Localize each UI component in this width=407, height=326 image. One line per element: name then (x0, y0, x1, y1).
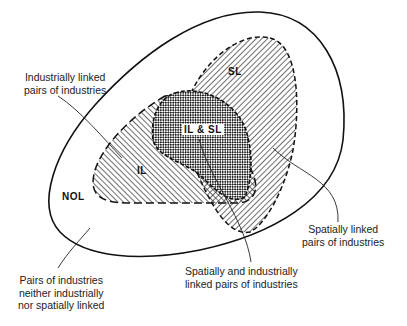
il-callout: Industrially linked pairs of industries (24, 71, 106, 96)
sl-label: SL (228, 66, 242, 77)
il-label: IL (137, 165, 147, 176)
overlap-callout: Spatially and industrially linked pairs … (185, 265, 298, 290)
nol-callout: Pairs of industries neither industrially… (18, 274, 104, 312)
nol-label: NOL (62, 191, 85, 202)
sl-callout: Spatially linked pairs of industries (302, 223, 384, 248)
overlap-label: IL & SL (182, 124, 224, 135)
